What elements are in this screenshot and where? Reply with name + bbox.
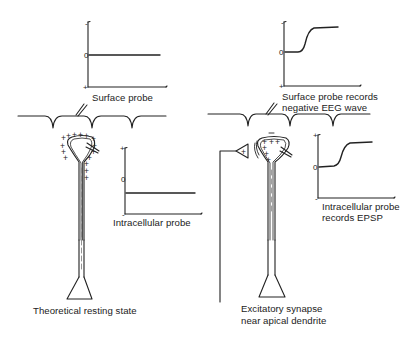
tick-labels: 0 - + 0 + - 0 - + 0 + -	[83, 18, 318, 219]
right-surface-trace	[285, 27, 338, 52]
svg-text:0: 0	[121, 175, 126, 184]
left-intracellular-graph	[125, 148, 202, 215]
right-neuron	[254, 133, 292, 297]
svg-text:+: +	[269, 137, 274, 147]
right-cortex-surface	[208, 114, 370, 126]
amplifier	[220, 144, 248, 302]
svg-text:-: -	[85, 19, 88, 28]
amplifier-plus-sign: +	[241, 147, 246, 157]
svg-text:+: +	[63, 153, 68, 163]
svg-text:-: -	[281, 18, 284, 27]
left-intracellular-probe-label: Intracellular probe	[113, 217, 191, 229]
svg-text:0: 0	[313, 163, 318, 172]
left-caption: Theoretical resting state	[33, 305, 137, 317]
left-neuron-soma	[67, 277, 92, 299]
svg-text:+: +	[266, 155, 271, 165]
svg-text:+: +	[313, 131, 318, 140]
right-caption-line1: Excitatory synapse	[241, 303, 322, 315]
right-surface-graph	[284, 22, 361, 87]
svg-text:+: +	[83, 83, 88, 92]
svg-text:0: 0	[84, 51, 89, 60]
diagram-canvas: + + + + + + + + + + + + + + +	[0, 0, 411, 340]
amplifier-wire	[220, 151, 236, 302]
svg-text:+: +	[72, 130, 77, 140]
right-intracellular-graph	[318, 135, 395, 199]
left-surface-probe-label: Surface probe	[92, 92, 153, 104]
left-surface-graph	[88, 22, 167, 88]
right-intracellular-trace	[319, 142, 372, 167]
right-surface-probe-icon	[266, 103, 277, 115]
svg-text:+: +	[279, 82, 284, 91]
svg-text:-: -	[315, 194, 318, 203]
svg-text:+: +	[78, 130, 83, 140]
svg-text:+: +	[84, 173, 89, 183]
svg-text:+: +	[84, 131, 89, 141]
right-intracellular-label-line1: Intracellular probe	[322, 201, 400, 213]
svg-text:0: 0	[279, 48, 284, 57]
right-neuron-soma	[259, 275, 285, 297]
svg-text:+: +	[120, 144, 125, 153]
right-caption-line2: near apical dendrite	[241, 315, 326, 327]
right-surface-probe-label-line2: negative EEG wave	[282, 102, 367, 114]
svg-text:+: +	[275, 137, 280, 147]
right-intracellular-label-line2: records EPSP	[322, 212, 383, 224]
svg-text:+: +	[66, 131, 71, 141]
left-cortex-surface	[18, 116, 166, 128]
left-surface-probe-icon	[76, 104, 87, 116]
left-neuron	[67, 136, 99, 300]
right-surface-probe-label-line1: Surface probe records	[282, 91, 378, 103]
